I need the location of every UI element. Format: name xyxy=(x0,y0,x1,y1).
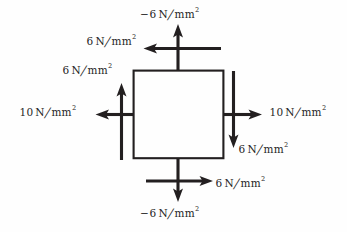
label-top-normal-unit-denominator: mm xyxy=(175,8,195,20)
stress-element-square xyxy=(134,71,224,159)
label-bottom-normal-sign: − xyxy=(140,207,149,219)
label-right-shear-unit-denominator: mm xyxy=(264,143,284,155)
label-right-shear-exponent: 2 xyxy=(284,141,288,149)
label-top-shear-value: 6 xyxy=(87,35,94,47)
label-left-normal-unit-numerator: N xyxy=(35,106,44,118)
label-left-shear-exponent: 2 xyxy=(108,62,112,70)
label-top-normal-value: 6 xyxy=(150,8,157,20)
label-right-shear-stress: 6N∕mm2 xyxy=(238,143,288,154)
label-bottom-normal-exponent: 2 xyxy=(195,205,199,213)
label-right-normal-value: 10 xyxy=(270,106,284,118)
label-top-shear-exponent: 2 xyxy=(132,33,136,41)
label-left-normal-stress: 10N∕mm2 xyxy=(19,106,76,117)
label-top-shear-unit-denominator: mm xyxy=(112,35,132,47)
label-top-normal-stress: −6N∕mm2 xyxy=(140,8,199,19)
label-left-shear-stress: 6N∕mm2 xyxy=(62,64,112,75)
label-right-normal-unit-numerator: N xyxy=(285,106,294,118)
label-top-normal-sign: − xyxy=(140,8,149,20)
top-shear-arrow xyxy=(144,44,222,54)
label-right-shear-value: 6 xyxy=(239,143,246,155)
label-left-normal-exponent: 2 xyxy=(72,104,76,112)
label-bottom-shear-exponent: 2 xyxy=(261,175,265,183)
label-bottom-shear-value: 6 xyxy=(216,177,223,189)
stress-element-figure: −6N∕mm2 6N∕mm2 6N∕mm2 10N∕mm2 10N∕mm2 6N… xyxy=(0,0,347,232)
label-left-normal-unit-denominator: mm xyxy=(51,106,71,118)
label-right-normal-unit-denominator: mm xyxy=(301,106,321,118)
label-right-normal-stress: 10N∕mm2 xyxy=(269,106,326,117)
left-normal-arrow xyxy=(96,110,135,120)
label-left-shear-value: 6 xyxy=(63,64,70,76)
label-bottom-normal-unit-denominator: mm xyxy=(175,207,195,219)
label-bottom-normal-value: 6 xyxy=(150,207,157,219)
right-normal-arrow xyxy=(223,110,262,120)
label-bottom-shear-unit-denominator: mm xyxy=(241,177,261,189)
label-left-shear-unit-denominator: mm xyxy=(88,64,108,76)
label-right-normal-exponent: 2 xyxy=(322,104,326,112)
label-bottom-normal-stress: −6N∕mm2 xyxy=(140,207,199,218)
label-top-normal-exponent: 2 xyxy=(195,6,199,14)
label-bottom-shear-stress: 6N∕mm2 xyxy=(215,177,265,188)
right-shear-arrow xyxy=(229,71,239,148)
left-shear-arrow xyxy=(117,83,127,160)
label-top-shear-stress: 6N∕mm2 xyxy=(86,35,136,46)
label-left-normal-value: 10 xyxy=(20,106,34,118)
